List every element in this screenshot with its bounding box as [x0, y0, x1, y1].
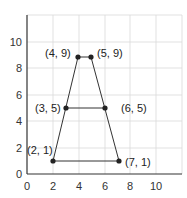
point-6-5 — [102, 105, 107, 110]
point-2-1 — [50, 158, 55, 163]
label-3-5: (3, 5) — [35, 102, 61, 114]
point-5-9 — [88, 54, 93, 59]
label-4-9: (4, 9) — [45, 47, 71, 59]
y-tick: 0 — [16, 168, 22, 180]
y-tick: 10 — [10, 36, 22, 48]
label-5-9: (5, 9) — [97, 47, 123, 59]
y-tick: 8 — [16, 62, 22, 74]
x-tick-labels: 0 2 4 6 8 10 — [24, 180, 162, 192]
x-tick: 6 — [102, 180, 108, 192]
trapezoid-chart: 0 2 4 6 8 10 0 2 4 6 8 10 (2, 1) (7, 1) … — [0, 0, 187, 198]
y-tick: 6 — [16, 89, 22, 101]
label-2-1: (2, 1) — [27, 144, 53, 156]
point-7-1 — [116, 158, 121, 163]
x-tick: 2 — [50, 180, 56, 192]
x-tick: 10 — [150, 180, 162, 192]
y-tick: 4 — [16, 115, 22, 127]
point-4-9 — [75, 54, 80, 59]
x-tick: 0 — [24, 180, 30, 192]
y-tick-labels: 0 2 4 6 8 10 — [10, 36, 22, 180]
y-tick: 2 — [16, 142, 22, 154]
data-points — [50, 54, 121, 163]
point-3-5 — [63, 105, 68, 110]
x-tick: 4 — [76, 180, 82, 192]
label-6-5: (6, 5) — [121, 102, 147, 114]
x-tick: 8 — [127, 180, 133, 192]
label-7-1: (7, 1) — [125, 156, 151, 168]
trapezoid-edges — [53, 57, 119, 161]
